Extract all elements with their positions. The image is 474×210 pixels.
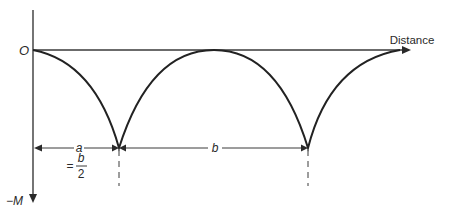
horizontal-axis-arrowhead-icon xyxy=(402,46,411,54)
x-axis-label: Distance xyxy=(390,34,435,46)
dimension-a-left-arrowhead-icon xyxy=(34,145,42,152)
dimension-b-label: b xyxy=(212,141,219,155)
origin-label: O xyxy=(19,43,29,58)
fraction-denominator: 2 xyxy=(78,167,85,181)
fraction-numerator: b xyxy=(78,151,85,165)
moment-diagram: O Distance −M a = b 2 b xyxy=(0,0,474,210)
y-axis-label: −M xyxy=(6,194,23,208)
vertical-axis-arrowhead-icon xyxy=(29,194,37,203)
moment-curve xyxy=(33,50,400,148)
dimension-a-equals: = xyxy=(66,159,73,173)
